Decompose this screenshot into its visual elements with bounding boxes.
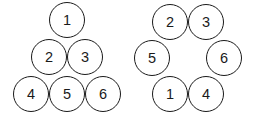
circle-node-label: 6 — [220, 50, 228, 65]
circle-node-6[interactable]: 6 — [206, 40, 242, 76]
circle-node-label: 5 — [148, 50, 156, 65]
circle-node-3[interactable]: 3 — [188, 4, 224, 40]
circle-node-label: 2 — [166, 14, 174, 29]
circle-node-label: 3 — [202, 14, 210, 29]
circle-node-4[interactable]: 4 — [188, 76, 224, 112]
circle-node-label: 4 — [202, 86, 210, 101]
circle-node-label: 1 — [166, 86, 174, 101]
figure-hexagon-ring-arrangement: 235614 — [0, 0, 259, 120]
circle-node-1[interactable]: 1 — [152, 76, 188, 112]
circle-node-2[interactable]: 2 — [152, 4, 188, 40]
diagram-canvas: 123456 235614 — [0, 0, 259, 120]
circle-node-5[interactable]: 5 — [134, 40, 170, 76]
